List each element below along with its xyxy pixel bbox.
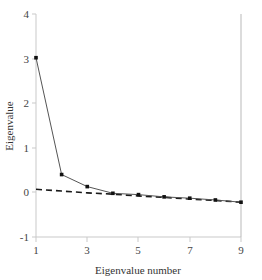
x-tick-label-3: 3 [84,244,90,256]
data-point-marker [34,56,38,60]
data-point-marker [111,191,115,195]
x-tick-label-7: 7 [187,244,193,256]
x-tick-label-5: 5 [135,244,141,256]
data-point-marker [239,200,243,204]
data-point-marker [137,193,141,197]
data-point-marker [214,198,218,202]
y-tick-label-4: 4 [24,8,30,20]
data-point-marker [60,173,64,177]
chart-canvas: 4 3 2 1 0 -1 1 3 5 7 9 Ei [0,0,262,280]
y-tick-label-3: 3 [24,53,30,65]
data-point-marker [188,196,192,200]
data-point-marker [162,195,166,199]
scree-plot-figure: 4 3 2 1 0 -1 1 3 5 7 9 Ei [0,0,262,280]
data-point-marker [85,185,89,189]
y-tick-label-1: 1 [24,142,30,154]
y-tick-label-neg1: -1 [20,231,29,243]
x-axis-title: Eigenvalue number [95,264,181,276]
chart-background [0,0,262,280]
y-axis-title: Eigenvalue [3,101,15,151]
x-tick-label-1: 1 [33,244,39,256]
y-tick-label-2: 2 [24,97,30,109]
y-tick-label-0: 0 [24,186,30,198]
x-tick-label-9: 9 [238,244,244,256]
